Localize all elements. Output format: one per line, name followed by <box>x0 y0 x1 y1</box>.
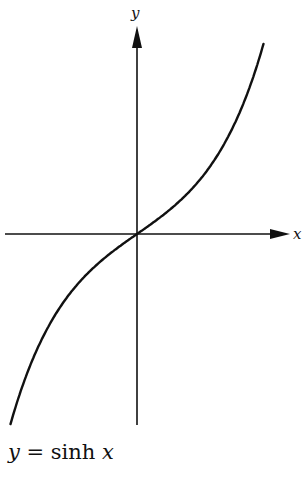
y-axis-label: y <box>130 4 140 22</box>
x-axis-label: x <box>293 225 302 243</box>
sinh-plot: x y <box>0 0 307 491</box>
y-axis-arrow-icon <box>132 26 142 48</box>
caption-eq: = sinh <box>20 440 102 464</box>
x-axis-arrow-icon <box>270 229 290 239</box>
caption-x: x <box>102 440 114 464</box>
caption-y: y <box>8 440 20 464</box>
chart-caption: y = sinh x <box>8 440 114 464</box>
